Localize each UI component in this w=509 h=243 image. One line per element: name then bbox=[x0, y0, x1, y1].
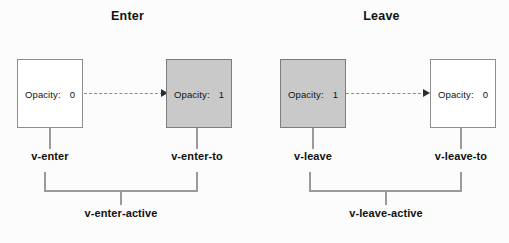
leave-bracket-left-arm bbox=[309, 172, 311, 192]
opacity-value: 1 bbox=[219, 88, 224, 99]
label-v-leave-active: v-leave-active bbox=[349, 207, 423, 219]
label-v-leave: v-leave bbox=[294, 150, 332, 162]
leave-transition-arrowhead-icon bbox=[423, 89, 430, 97]
label-v-enter: v-enter bbox=[31, 150, 68, 162]
leave-start-stub bbox=[312, 128, 314, 149]
label-v-enter-to: v-enter-to bbox=[171, 150, 223, 162]
enter-bracket-center-stub bbox=[120, 190, 122, 205]
opacity-key-label: Opacity: bbox=[288, 88, 324, 99]
enter-start-opacity: Opacity: 0 bbox=[18, 88, 82, 99]
leave-transition-arrow-line bbox=[346, 93, 426, 94]
leave-start-box: Opacity: 1 bbox=[280, 59, 346, 128]
enter-end-box: Opacity: 1 bbox=[166, 59, 232, 128]
enter-start-stub bbox=[49, 128, 51, 149]
opacity-key-label: Opacity: bbox=[174, 88, 210, 99]
panel-leave: Leave Opacity: 1 Opacity: 0 v-leave v-le… bbox=[254, 0, 509, 243]
leave-end-opacity: Opacity: 0 bbox=[431, 88, 495, 99]
panel-leave-title: Leave bbox=[254, 9, 509, 23]
leave-start-opacity: Opacity: 1 bbox=[281, 88, 345, 99]
leave-end-box: Opacity: 0 bbox=[430, 59, 496, 128]
enter-start-box: Opacity: 0 bbox=[17, 59, 83, 128]
opacity-value: 1 bbox=[333, 88, 338, 99]
enter-bracket-left-arm bbox=[44, 172, 46, 192]
panel-enter-title: Enter bbox=[0, 9, 255, 23]
opacity-key-label: Opacity: bbox=[438, 88, 474, 99]
leave-end-stub bbox=[460, 128, 462, 149]
enter-transition-arrow-line bbox=[84, 93, 163, 94]
opacity-key-label: Opacity: bbox=[25, 88, 61, 99]
enter-end-stub bbox=[196, 128, 198, 149]
panel-enter: Enter Opacity: 0 Opacity: 1 v-enter v-en… bbox=[0, 0, 255, 243]
enter-end-opacity: Opacity: 1 bbox=[167, 88, 231, 99]
leave-bracket-right-arm bbox=[460, 172, 462, 192]
label-v-leave-to: v-leave-to bbox=[435, 150, 487, 162]
enter-bracket-right-arm bbox=[196, 172, 198, 192]
transition-diagram: Enter Opacity: 0 Opacity: 1 v-enter v-en… bbox=[0, 0, 509, 243]
opacity-value: 0 bbox=[70, 88, 75, 99]
leave-bracket-center-stub bbox=[385, 190, 387, 205]
label-v-enter-active: v-enter-active bbox=[85, 207, 158, 219]
opacity-value: 0 bbox=[483, 88, 488, 99]
